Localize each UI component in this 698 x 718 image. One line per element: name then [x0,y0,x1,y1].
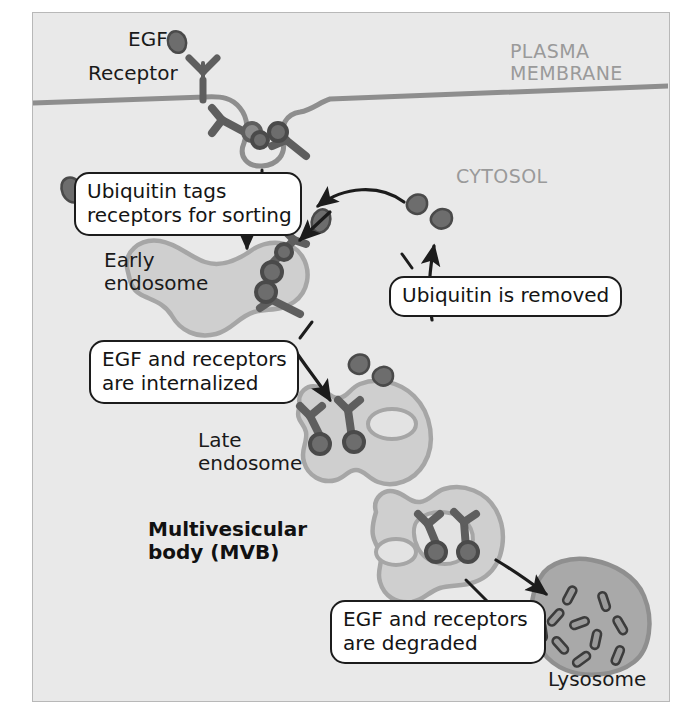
label-mvb: Multivesicular body (MVB) [148,518,307,564]
arrow-ubiquitin-release-curve [318,190,404,206]
label-cytosol: CYTOSOL [456,165,548,187]
callout-ubiquitin-removed: Ubiquitin is removed [389,276,622,317]
label-lysosome: Lysosome [548,668,646,691]
arrow-into-early-endosome-diagonal [300,212,330,240]
label-early-endosome: Early endosome [104,249,208,295]
label-receptor: Receptor [88,62,178,85]
leader-internalized-box [300,322,312,338]
arrow-mvb-to-lysosome [496,560,546,594]
callout-ubiquitin-tags: Ubiquitin tags receptors for sorting [74,172,302,236]
label-plasma-membrane: PLASMA MEMBRANE [510,40,623,84]
label-late-endosome: Late endosome [198,429,302,475]
leader-removed-box-top [402,254,412,268]
callout-internalized: EGF and receptors are internalized [89,340,299,404]
callout-degraded: EGF and receptors are degraded [330,600,546,664]
figure-canvas: EGF Receptor PLASMA MEMBRANE CYTOSOL Ear… [0,0,698,718]
label-egf: EGF [128,28,168,51]
